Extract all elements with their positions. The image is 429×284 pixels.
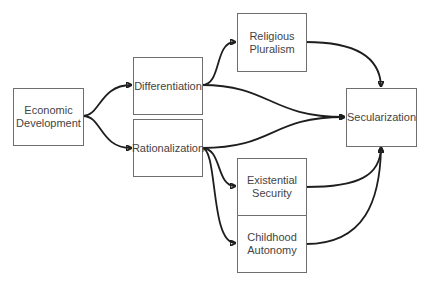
node-secularization: Secularization	[346, 88, 417, 147]
edge-rationalization-to-childhood-autonomy	[202, 148, 235, 243]
edge-religious-pluralism-to-secularization	[306, 42, 381, 86]
node-label: Religious Pluralism	[249, 30, 294, 56]
node-rationalization: Rationalization	[133, 119, 203, 177]
edge-existential-security-to-secularization	[306, 148, 381, 187]
edge-economic-development-to-differentiation	[83, 85, 131, 116]
edge-childhood-autonomy-to-secularization	[306, 148, 381, 244]
node-label: Rationalization	[132, 142, 204, 155]
node-differentiation: Differentiation	[133, 57, 203, 115]
node-label: Differentiation	[134, 80, 202, 93]
node-label: Economic Development	[16, 104, 81, 130]
node-label: Existential Security	[247, 174, 297, 200]
node-label: Childhood Autonomy	[247, 231, 297, 257]
node-existential-security: Existential Security	[237, 158, 307, 216]
node-label: Secularization	[347, 111, 416, 124]
node-religious-pluralism: Religious Pluralism	[237, 13, 307, 72]
node-childhood-autonomy: Childhood Autonomy	[237, 215, 307, 273]
edge-rationalization-to-secularization	[202, 117, 344, 148]
edge-differentiation-to-secularization	[202, 85, 344, 117]
edge-differentiation-to-religious-pluralism	[202, 42, 235, 85]
edge-economic-development-to-rationalization	[83, 116, 131, 148]
node-economic-development: Economic Development	[13, 88, 84, 146]
